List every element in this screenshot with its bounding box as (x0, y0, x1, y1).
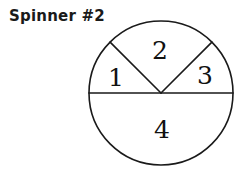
sector-label-2: 2 (152, 36, 168, 65)
sector-label-4: 4 (154, 115, 170, 144)
sector-label-1: 1 (108, 63, 124, 92)
sector-label-3: 3 (197, 61, 213, 90)
spinner-diagram: 1 2 3 4 (0, 0, 242, 172)
worksheet-canvas: Spinner #2 1 2 3 4 (0, 0, 242, 172)
